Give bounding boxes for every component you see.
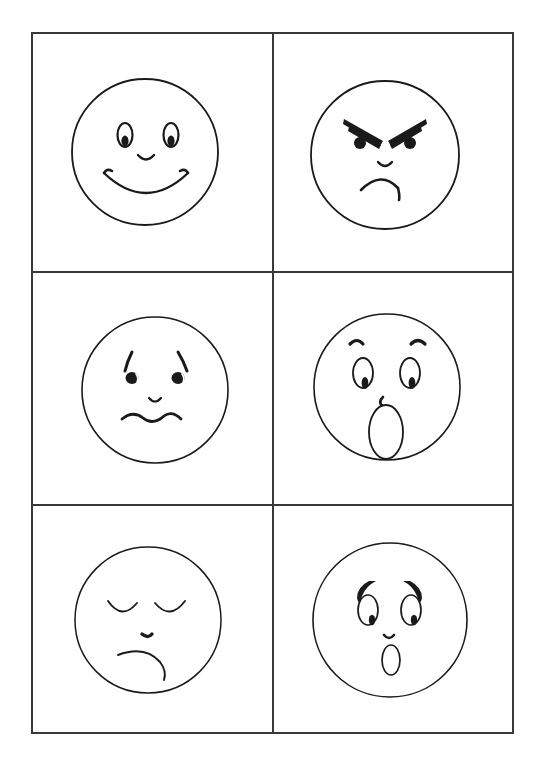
face-happy-outline xyxy=(72,79,218,225)
face-surprised-mouth xyxy=(369,405,403,459)
face-scared-pupil-right xyxy=(411,615,417,625)
face-scared[interactable] xyxy=(313,543,467,697)
face-happy-pupil-left xyxy=(121,136,128,147)
face-surprised[interactable] xyxy=(314,314,460,460)
face-angry-mouth-tail xyxy=(398,188,399,200)
face-happy[interactable] xyxy=(72,79,218,225)
emotion-faces-sheet xyxy=(0,0,541,766)
face-sad-outline xyxy=(82,317,228,463)
face-angry-outline xyxy=(311,81,459,229)
face-surprised-pupil-left xyxy=(362,377,369,389)
face-scared-mouth xyxy=(382,645,400,675)
face-surprised-pupil-right xyxy=(409,377,416,389)
face-angry[interactable] xyxy=(311,81,459,229)
worksheet-page xyxy=(0,0,541,766)
face-scared-pupil-left xyxy=(369,615,375,625)
face-happy-pupil-right xyxy=(167,136,174,147)
face-sad[interactable] xyxy=(82,317,228,463)
face-angry-eye-left xyxy=(354,137,366,149)
face-sleepy-outline xyxy=(75,547,221,693)
face-sleepy[interactable] xyxy=(75,547,221,693)
face-angry-eye-right xyxy=(404,137,416,149)
